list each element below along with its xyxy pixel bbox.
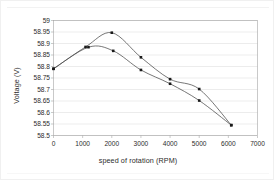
chart-figure: 58.558.5558.658.6558.758.7558.858.8558.9… — [0, 0, 274, 180]
data-point-marker — [198, 99, 201, 102]
data-point-marker — [52, 68, 55, 71]
data-point-marker — [112, 50, 115, 53]
y-axis-tick-label: 58.85 — [21, 51, 50, 58]
x-axis-tick-label: 7000 — [243, 140, 273, 147]
y-axis-tick-label: 58.75 — [21, 74, 50, 81]
x-axis-tick-label: 5000 — [184, 140, 214, 147]
series-line — [54, 32, 232, 125]
data-point-marker — [198, 88, 201, 91]
y-axis-tick-label: 59 — [21, 17, 50, 24]
y-axis-tick-label: 58.55 — [21, 120, 50, 127]
x-axis-tick-label: 6000 — [213, 140, 243, 147]
y-axis-tick-label: 58.8 — [21, 63, 50, 70]
x-axis-tick-label: 0 — [39, 140, 69, 147]
y-axis-tick-label: 58.9 — [21, 40, 50, 47]
series-lines — [54, 32, 232, 125]
series-markers — [52, 31, 232, 126]
data-point-marker — [230, 124, 233, 127]
x-axis-tick-label: 3000 — [126, 140, 156, 147]
y-axis-tick-label: 58.6 — [21, 109, 50, 116]
x-axis-tick-label: 1000 — [68, 140, 98, 147]
data-point-marker — [110, 31, 113, 34]
data-point-marker — [140, 56, 143, 59]
y-axis-tick-label: 58.7 — [21, 86, 50, 93]
gridlines — [54, 21, 258, 136]
data-point-marker — [169, 82, 172, 85]
data-point-marker — [169, 78, 172, 81]
y-axis-tick-label: 58.5 — [21, 132, 50, 139]
axis-ticks — [51, 21, 258, 139]
data-point-marker — [84, 46, 87, 49]
x-axis-tick-label: 4000 — [155, 140, 185, 147]
series-line — [54, 46, 232, 125]
data-point-marker — [87, 46, 90, 49]
y-axis-tick-label: 58.95 — [21, 28, 50, 35]
y-axis-title: Voltage (V) — [12, 41, 21, 131]
y-axis-tick-label: 58.65 — [21, 97, 50, 104]
data-point-marker — [140, 69, 143, 72]
x-axis-title: speed of rotation (RPM) — [1, 156, 274, 165]
x-axis-tick-label: 2000 — [97, 140, 127, 147]
